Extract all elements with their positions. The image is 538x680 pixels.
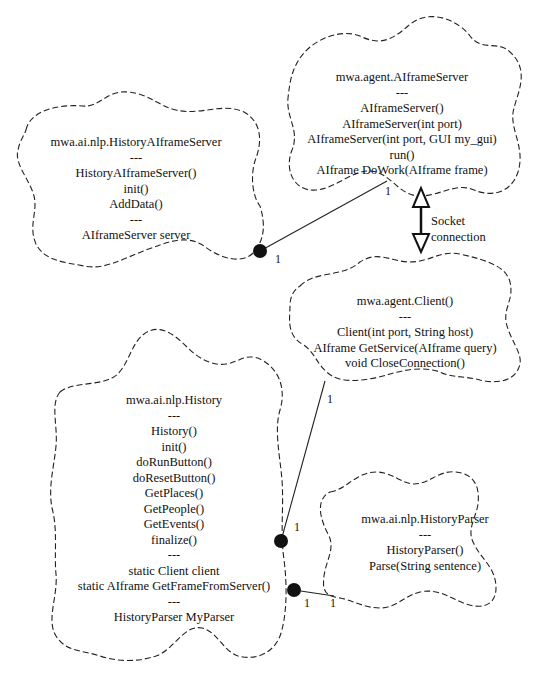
multiplicity-label: 1 <box>275 252 281 267</box>
multiplicity-label: 1 <box>385 184 391 199</box>
class-name: mwa.ai.nlp.HistoryAIframeServer <box>50 135 221 151</box>
class-member: AIframeServer(int port, GUI my_gui) <box>307 132 497 148</box>
class-member: GetEvents() <box>78 517 270 533</box>
class-member: Parse(String sentence) <box>361 559 488 575</box>
class-member: AIframeServer() <box>307 101 497 117</box>
class-member: HistoryParser MyParser <box>78 610 270 626</box>
multiplicity-label: 1 <box>304 596 310 611</box>
class-member: AIframeServer(int port) <box>307 117 497 133</box>
class-separator: --- <box>78 595 270 611</box>
association-history-to-client <box>281 381 325 541</box>
class-member: doRunButton() <box>78 455 270 471</box>
class-name: mwa.agent.AIframeServer <box>307 70 497 86</box>
socket-label-line: connection <box>431 229 486 245</box>
multiplicity-label: 1 <box>294 520 300 535</box>
class-member: static Client client <box>78 564 270 580</box>
class-name: mwa.ai.nlp.HistoryParser <box>361 512 488 528</box>
class-member: AIframeServer server <box>50 228 221 244</box>
class-member: AddData() <box>50 197 221 213</box>
class-aiframe-server: mwa.agent.AIframeServer --- AIframeServe… <box>307 70 497 179</box>
socket-connection-arrow-icon <box>413 188 429 252</box>
class-member: AIframe DoWork(AIframe frame) <box>307 163 497 179</box>
class-member: GetPeople() <box>78 502 270 518</box>
class-member: HistoryAIframeServer() <box>50 166 221 182</box>
class-separator: --- <box>78 548 270 564</box>
aggregation-dot <box>274 534 288 548</box>
class-separator: --- <box>50 213 221 229</box>
association-history-server-to-aiframe-server <box>260 181 387 251</box>
aggregation-dot <box>253 244 267 258</box>
class-member: run() <box>307 148 497 164</box>
aggregation-dot <box>287 583 301 597</box>
class-member: AIframe GetService(AIframe query) <box>313 341 496 357</box>
class-separator: --- <box>313 310 496 326</box>
socket-label-line: Socket <box>431 213 486 229</box>
class-separator: --- <box>78 409 270 425</box>
socket-connection-label: Socket connection <box>431 213 486 245</box>
class-member: Client(int port, String host) <box>313 325 496 341</box>
class-client: mwa.agent.Client() --- Client(int port, … <box>313 294 496 372</box>
class-member: GetPlaces() <box>78 486 270 502</box>
class-name: mwa.agent.Client() <box>313 294 496 310</box>
class-member: init() <box>78 440 270 456</box>
class-separator: --- <box>361 528 488 544</box>
class-member: init() <box>50 182 221 198</box>
class-name: mwa.ai.nlp.History <box>78 393 270 409</box>
class-member: HistoryParser() <box>361 543 488 559</box>
multiplicity-label: 1 <box>327 392 333 407</box>
class-history-aiframe-server: mwa.ai.nlp.HistoryAIframeServer --- Hist… <box>50 135 221 244</box>
multiplicity-label: 1 <box>330 596 336 611</box>
class-history-parser: mwa.ai.nlp.HistoryParser --- HistoryPars… <box>361 512 488 574</box>
class-member: History() <box>78 424 270 440</box>
class-member: static AIframe GetFrameFromServer() <box>78 579 270 595</box>
class-member: finalize() <box>78 533 270 549</box>
class-member: doResetButton() <box>78 471 270 487</box>
class-history: mwa.ai.nlp.History --- History() init() … <box>78 393 270 626</box>
class-member: void CloseConnection() <box>313 356 496 372</box>
class-separator: --- <box>50 151 221 167</box>
class-separator: --- <box>307 86 497 102</box>
